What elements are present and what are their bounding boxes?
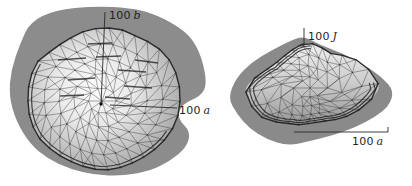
mesh-vertex-dot bbox=[351, 99, 353, 101]
mesh-vertex-dot bbox=[308, 54, 310, 56]
mesh-vertex-dot bbox=[278, 111, 280, 113]
mesh-vertex-dot bbox=[318, 57, 320, 59]
mesh-vertex-dot bbox=[267, 103, 269, 105]
mesh-vertex-dot bbox=[328, 111, 330, 113]
left-plot-horizontal-axis-label: 100 a bbox=[179, 105, 210, 116]
mesh-vertex-dot bbox=[58, 101, 60, 103]
mesh-vertex-dot bbox=[162, 98, 164, 100]
mesh-vertex-dot bbox=[45, 115, 47, 117]
accent-edge bbox=[96, 56, 121, 57]
mesh-vertex-dot bbox=[44, 102, 46, 104]
mesh-vertex-dot bbox=[91, 152, 93, 154]
right-plot-vertical-axis-scale: 100 bbox=[308, 30, 330, 43]
accent-edge bbox=[88, 43, 112, 44]
mesh-vertex-dot bbox=[147, 134, 149, 136]
mesh-vertex-dot bbox=[66, 123, 68, 125]
mesh-vertex-dot bbox=[139, 75, 141, 77]
mesh-vertex-dot bbox=[95, 59, 97, 61]
mesh-vertex-dot bbox=[55, 66, 57, 68]
left-plot-horizontal-axis-scale: 100 bbox=[179, 104, 201, 117]
mesh-vertex-dot bbox=[80, 149, 82, 151]
mesh-vertex-dot bbox=[74, 69, 76, 71]
mesh-vertex-dot bbox=[51, 127, 53, 129]
mesh-vertex-dot bbox=[118, 137, 120, 139]
mesh-vertex-dot bbox=[160, 112, 162, 114]
mesh-vertex-dot bbox=[60, 113, 62, 115]
mesh-vertex-dot bbox=[130, 67, 132, 69]
mesh-vertex-dot bbox=[59, 136, 61, 138]
mesh-vertex-dot bbox=[115, 152, 117, 154]
mesh-vertex-dot bbox=[59, 88, 61, 90]
left-surface-plot bbox=[10, 7, 206, 176]
mesh-vertex-dot bbox=[361, 85, 363, 87]
figure-canvas: 100 b 100 a 100 J 100 a bbox=[0, 0, 412, 186]
mesh-vertex-dot bbox=[272, 77, 274, 79]
mesh-vertex-dot bbox=[125, 48, 127, 50]
left-plot-vertical-axis-scale: 100 bbox=[109, 9, 131, 22]
mesh-vertex-dot bbox=[283, 69, 285, 71]
mesh-vertex-dot bbox=[147, 100, 149, 102]
right-plot-horizontal-axis-scale: 100 bbox=[352, 135, 374, 148]
surface-plots-svg bbox=[0, 0, 412, 186]
mesh-vertex-dot bbox=[107, 140, 109, 142]
left-plot-vertical-axis-label: 100 b bbox=[109, 10, 141, 21]
mesh-vertex-dot bbox=[161, 85, 163, 87]
mesh-vertex-dot bbox=[318, 112, 320, 114]
mesh-vertex-dot bbox=[107, 58, 109, 60]
mesh-vertex-dot bbox=[155, 124, 157, 126]
left-plot-vertical-axis-symbol: b bbox=[133, 9, 140, 22]
right-plot-horizontal-axis-label: 100 a bbox=[352, 136, 383, 147]
mesh-vertex-dot bbox=[103, 154, 105, 156]
mesh-vertex-dot bbox=[47, 76, 49, 78]
left-plot-horizontal-axis-symbol: a bbox=[203, 104, 210, 117]
mesh-vertex-dot bbox=[137, 123, 139, 125]
mesh-vertex-dot bbox=[76, 52, 78, 54]
mesh-vertex-dot bbox=[75, 131, 77, 133]
mesh-vertex-dot bbox=[352, 72, 354, 74]
mesh-vertex-dot bbox=[85, 136, 87, 138]
mesh-vertex-dot bbox=[310, 113, 312, 115]
mesh-vertex-dot bbox=[64, 77, 66, 79]
mesh-vertex-dot bbox=[327, 61, 329, 63]
mesh-vertex-dot bbox=[290, 63, 292, 65]
mesh-vertex-dot bbox=[144, 113, 146, 115]
mesh-vertex-dot bbox=[44, 89, 46, 91]
mesh-vertex-dot bbox=[339, 64, 341, 66]
mesh-vertex-dot bbox=[126, 148, 128, 150]
mesh-vertex-dot bbox=[119, 61, 121, 63]
mesh-vertex-dot bbox=[96, 140, 98, 142]
right-surface-plot bbox=[230, 28, 392, 145]
mesh-vertex-dot bbox=[298, 57, 300, 59]
origin-dot bbox=[99, 102, 102, 105]
mesh-vertex-dot bbox=[84, 63, 86, 65]
mesh-vertex-dot bbox=[112, 44, 114, 46]
accent-edge bbox=[60, 95, 84, 96]
mesh-vertex-dot bbox=[136, 54, 138, 56]
mesh-vertex-dot bbox=[339, 107, 341, 109]
mesh-vertex-dot bbox=[261, 89, 263, 91]
right-plot-vertical-axis-symbol: J bbox=[332, 30, 337, 43]
mesh-vertex-dot bbox=[128, 131, 130, 133]
right-plot-vertical-axis-label: 100 J bbox=[308, 31, 337, 42]
right-plot-horizontal-axis-symbol: a bbox=[376, 135, 383, 148]
mesh-vertex-dot bbox=[87, 46, 89, 48]
mesh-vertex-dot bbox=[69, 143, 71, 145]
mesh-vertex-dot bbox=[156, 72, 158, 74]
mesh-vertex-dot bbox=[291, 114, 293, 116]
mesh-vertex-dot bbox=[301, 115, 303, 117]
mesh-vertex-dot bbox=[137, 142, 139, 144]
